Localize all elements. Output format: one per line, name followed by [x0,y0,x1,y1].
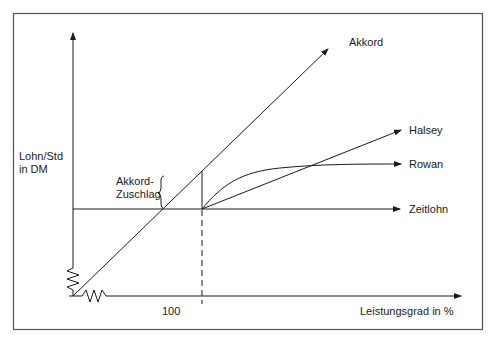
curve-label-halsey: Halsey [409,124,443,137]
x-axis-label: Leistungsgrad in % [360,305,454,318]
akkord-zuschlag-label: Akkord- Zuschlag [116,175,161,201]
y-axis-label: Lohn/Std in DM [19,150,63,176]
akkord-line [73,49,328,296]
x-axis [69,290,461,302]
curve-label-akkord: Akkord [349,36,383,49]
rowan-curve [202,164,401,209]
curve-label-zeitlohn: Zeitlohn [409,203,448,216]
x-axis-break-icon [82,290,106,302]
frame-border [14,14,483,330]
y-axis [67,33,79,296]
curve-label-rowan: Rowan [409,158,443,171]
x-tick-label-100: 100 [162,305,180,318]
diagram-canvas [0,0,495,344]
wage-system-diagram: Lohn/Std in DM Akkord Halsey Rowan Zeitl… [0,0,495,344]
